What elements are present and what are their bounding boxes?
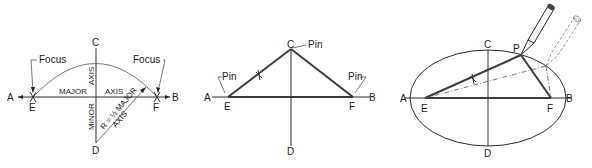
panel-1: A E C D F B Focus Focus MAJOR AXIS AXIS …: [7, 37, 179, 156]
point-e-label: E: [421, 103, 428, 114]
point-c-label: C: [92, 37, 99, 48]
point-c-label: C: [484, 39, 491, 50]
pin-label-right: Pin: [348, 71, 362, 82]
point-b-label: B: [172, 92, 179, 103]
point-b-label: B: [369, 92, 376, 103]
arrowhead: [18, 95, 23, 99]
minor-label: MINOR: [87, 103, 96, 130]
point-c-label: C: [287, 39, 294, 50]
ellipse-pin-and-string-diagram: A E C D F B Focus Focus MAJOR AXIS AXIS …: [0, 0, 592, 168]
string-right: [521, 55, 551, 98]
point-a-label: A: [7, 92, 14, 103]
point-f-label: F: [349, 101, 355, 112]
pencil-ghost-icon: [546, 15, 582, 66]
string-right: [291, 49, 353, 97]
pin-leader-top: [293, 45, 306, 48]
point-e-label: E: [29, 102, 36, 113]
point-d-label: D: [484, 148, 491, 159]
string-left: [228, 49, 291, 97]
point-p-label: P: [513, 43, 520, 54]
focus-label-left: Focus: [39, 54, 66, 65]
point-f-label: F: [153, 102, 159, 113]
pin-label-left: Pin: [222, 71, 236, 82]
point-d-label: D: [287, 146, 294, 157]
arrowhead: [31, 87, 35, 93]
panel-3: A E C D F B P: [400, 3, 582, 159]
axis-vertical-label: AXIS: [87, 67, 96, 85]
point-e-label: E: [224, 101, 231, 112]
panel-2: A E C D F B Pin Pin Pin: [204, 39, 376, 157]
axis-label: AXIS: [105, 87, 123, 96]
major-label: MAJOR: [59, 87, 87, 96]
point-d-label: D: [92, 145, 99, 156]
radius-arrowhead: [140, 87, 146, 93]
arrowhead: [165, 95, 170, 99]
point-a-label: A: [204, 92, 211, 103]
point-b-label: B: [566, 93, 573, 104]
point-a-label: A: [400, 93, 407, 104]
focus-label-right: Focus: [133, 54, 160, 65]
point-f-label: F: [547, 103, 553, 114]
pencil-icon: [521, 3, 556, 55]
pin-label-top: Pin: [308, 39, 322, 50]
